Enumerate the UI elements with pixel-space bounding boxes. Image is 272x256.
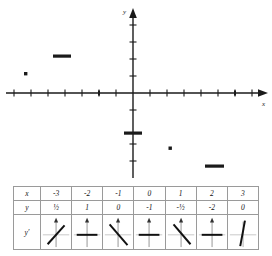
segment-e-dash <box>205 165 224 168</box>
yprime-cell-6 <box>227 215 258 250</box>
point-a-dot <box>24 72 27 75</box>
y-cell-6: 0 <box>227 201 258 215</box>
zero-slope-icon <box>72 215 102 249</box>
table-row-x: x -3 -2 -1 0 1 2 3 <box>14 187 259 201</box>
values-table-panel: x -3 -2 -1 0 1 2 3 y ½ 1 0 -1 -½ -2 0 y′ <box>13 186 259 250</box>
zero-slope-icon <box>197 215 227 249</box>
point-d-dot <box>169 147 172 150</box>
y-cell-0: ½ <box>41 201 72 215</box>
x-cell-3: 0 <box>134 187 165 201</box>
x-cell-1: -2 <box>72 187 103 201</box>
y-axis-arrowhead <box>129 8 137 18</box>
negative-slope-icon <box>166 215 196 249</box>
graph-panel: x y <box>0 0 272 180</box>
y-cell-3: -1 <box>134 201 165 215</box>
x-cell-0: -3 <box>41 187 72 201</box>
segment-b-dash <box>53 55 71 58</box>
x-axis-arrowhead <box>258 89 268 97</box>
steep-positive-slope-icon <box>228 215 258 249</box>
table-row-y: y ½ 1 0 -1 -½ -2 0 <box>14 201 259 215</box>
y-cell-5: -2 <box>196 201 227 215</box>
x-cell-6: 3 <box>227 187 258 201</box>
x-cell-5: 2 <box>196 187 227 201</box>
row-header-x: x <box>14 187 41 201</box>
y-axis-label: y <box>122 8 127 16</box>
y-cell-4: -½ <box>165 201 196 215</box>
negative-slope-icon <box>103 215 133 249</box>
x-cell-2: -1 <box>103 187 134 201</box>
yprime-cell-3 <box>134 215 165 250</box>
values-table: x -3 -2 -1 0 1 2 3 y ½ 1 0 -1 -½ -2 0 y′ <box>13 186 259 250</box>
coordinate-plane-svg: x y <box>0 0 272 180</box>
plot-marks <box>24 55 224 168</box>
table-row-yprime: y′ <box>14 215 259 250</box>
row-header-y: y <box>14 201 41 215</box>
yprime-cell-4 <box>165 215 196 250</box>
segment-c-dash <box>124 132 142 135</box>
zero-slope-icon <box>134 215 164 249</box>
yprime-cell-5 <box>196 215 227 250</box>
yprime-cell-0 <box>41 215 72 250</box>
y-cell-1: 1 <box>72 201 103 215</box>
y-cell-2: 0 <box>103 201 134 215</box>
positive-slope-icon <box>41 215 71 249</box>
x-axis-label: x <box>261 100 266 108</box>
x-cell-4: 1 <box>165 187 196 201</box>
yprime-cell-2 <box>103 215 134 250</box>
yprime-cell-1 <box>72 215 103 250</box>
row-header-yprime: y′ <box>14 215 41 250</box>
